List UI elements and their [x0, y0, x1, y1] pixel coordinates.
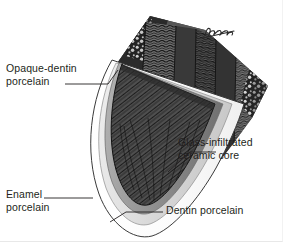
dental-cross-section-figure: Opaque-dentin porcelain Enamel porcelain… — [0, 0, 283, 242]
label-opaque-dentin-porcelain: Opaque-dentin porcelain — [6, 62, 77, 87]
label-glass-infiltrated-ceramic-core: Glass-infiltrated ceramic core — [178, 136, 253, 161]
label-dentin-porcelain: Dentin porcelain — [166, 204, 243, 217]
label-enamel-porcelain: Enamel porcelain — [6, 188, 50, 213]
